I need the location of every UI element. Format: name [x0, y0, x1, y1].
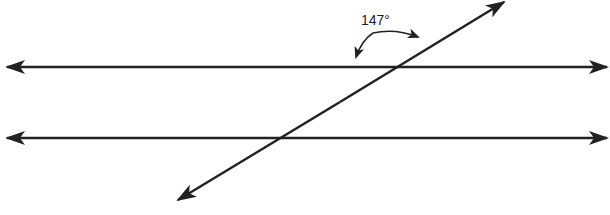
transversal-line: [178, 2, 504, 200]
angle-arc-indicator: [356, 31, 418, 57]
angle-label: 147°: [361, 12, 390, 28]
diagram-canvas: 147°: [0, 0, 610, 215]
